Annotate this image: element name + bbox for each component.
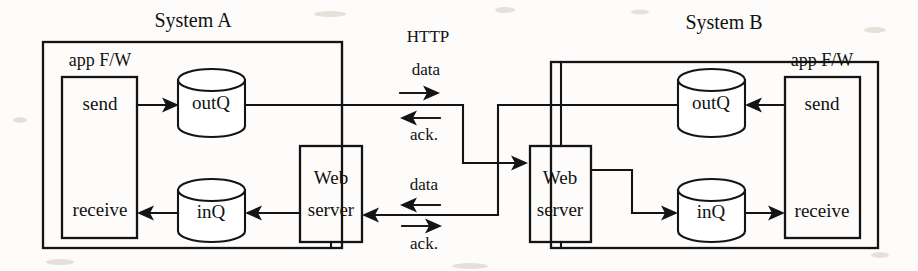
- channel-upper-line: [245, 105, 520, 163]
- channel-upper-ack-arrow: [400, 111, 440, 126]
- system-b-outq-label: outQ: [692, 92, 730, 113]
- system-b-inq-label: inQ: [697, 201, 726, 222]
- system-a-send-label: send: [83, 93, 118, 114]
- channel-lower-ack-label: ack.: [410, 234, 438, 253]
- system-b-send-to-outq-arrow: [745, 98, 785, 113]
- http-protocol-label: HTTP: [407, 27, 450, 46]
- system-a-send-to-outq-arrow: [137, 98, 179, 113]
- diagram-svg: System A app F/W send receive outQ inQ W…: [0, 0, 918, 271]
- system-b-appfw-label: app F/W: [791, 50, 854, 70]
- system-b-webserver-label-line2: server: [537, 199, 584, 220]
- system-b-webserver-to-inq-arrow: [591, 170, 678, 221]
- channel-upper-ack-label: ack.: [410, 125, 438, 144]
- system-a-webserver-box: [300, 146, 362, 242]
- channel-upper-data-label: data: [412, 60, 441, 79]
- system-a-outq-label: outQ: [192, 92, 230, 113]
- system-b-inq-to-receive-arrow: [745, 206, 785, 221]
- channel-upper-data-arrow: [400, 86, 440, 101]
- system-a-appfw-label: app F/W: [69, 50, 132, 70]
- system-a-webserver-to-inq-arrow: [245, 206, 300, 221]
- system-b-title: System B: [685, 11, 762, 34]
- system-a-inq-to-receive-arrow: [137, 206, 178, 221]
- channel-lower-data-label: data: [410, 175, 439, 194]
- system-b-webserver-box: [530, 146, 591, 242]
- system-b-receive-label: receive: [795, 200, 850, 221]
- scan-noise: [13, 7, 889, 269]
- diagram-canvas: System A app F/W send receive outQ inQ W…: [0, 0, 918, 271]
- system-b-group: System B app F/W send receive outQ inQ W…: [530, 11, 878, 248]
- channel-lower-ack-arrow: [402, 219, 442, 234]
- system-a-webserver-label-line1: Web: [314, 167, 348, 188]
- system-a-receive-label: receive: [73, 199, 128, 220]
- system-a-webserver-label-line2: server: [308, 199, 355, 220]
- channel-upper-group: HTTP data ack.: [245, 27, 528, 171]
- system-b-webserver-label-line1: Web: [543, 167, 577, 188]
- system-b-send-label: send: [805, 93, 840, 114]
- system-a-group: System A app F/W send receive outQ inQ W…: [43, 9, 362, 248]
- channel-lower-data-arrow: [400, 198, 440, 213]
- system-a-title: System A: [154, 9, 232, 32]
- system-a-inq-label: inQ: [197, 201, 226, 222]
